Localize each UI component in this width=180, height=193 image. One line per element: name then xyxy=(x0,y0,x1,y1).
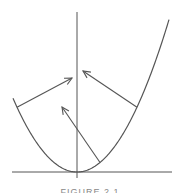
figure-caption: FIGURE 2.1 xyxy=(0,187,180,193)
parabola-diagram xyxy=(0,0,180,193)
left-arrow xyxy=(17,78,72,107)
arrowhead-icon xyxy=(83,71,91,78)
arrow-shaft xyxy=(17,78,72,107)
arrowhead-icon xyxy=(62,107,69,115)
right-arrow xyxy=(83,71,137,107)
bottom-arrow xyxy=(62,107,100,162)
arrow-shaft xyxy=(83,71,137,107)
arrow-shaft xyxy=(62,107,100,162)
